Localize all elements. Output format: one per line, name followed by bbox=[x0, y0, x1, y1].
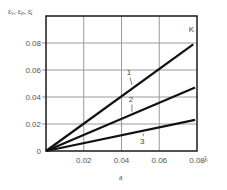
series-label-1: 1 bbox=[127, 68, 132, 77]
x-tick-label: 0.02 bbox=[76, 156, 92, 165]
series-label-3: 3 bbox=[140, 137, 145, 146]
y-tick-label: 0.08 bbox=[25, 39, 41, 48]
line-chart: 0.020.040.060.0800.020.040.060.08 123K ε… bbox=[0, 0, 227, 190]
y-tick-label: 0.04 bbox=[25, 93, 41, 102]
series-leader-1 bbox=[130, 77, 132, 84]
x-axis-label: λ bbox=[204, 155, 208, 164]
y-tick-label: 0.02 bbox=[25, 120, 41, 129]
figure-caption: a bbox=[119, 173, 123, 182]
annotation-label: K bbox=[189, 25, 195, 34]
x-tick-label: 0.04 bbox=[114, 156, 130, 165]
y-tick-label: 0.06 bbox=[25, 66, 41, 75]
y-axis-label: εᵥ, εₚ, εⱼ bbox=[8, 7, 32, 16]
x-tick-label: 0.08 bbox=[189, 156, 205, 165]
series-lines bbox=[46, 44, 195, 151]
y-tick-label: 0 bbox=[37, 147, 42, 156]
grid bbox=[42, 16, 197, 151]
x-tick-label: 0.06 bbox=[151, 156, 167, 165]
series-label-2: 2 bbox=[129, 95, 134, 104]
